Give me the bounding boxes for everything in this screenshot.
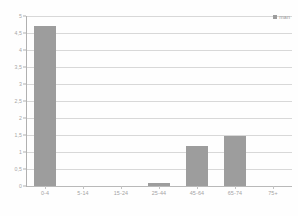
plot-area <box>26 16 292 186</box>
y-axis-tick-mark <box>23 67 26 68</box>
bar-slot <box>178 16 216 186</box>
x-axis-tick-mark <box>235 186 236 189</box>
bar-series-man <box>26 16 292 186</box>
legend-label-man: man <box>279 14 290 20</box>
y-axis-tick-mark <box>23 152 26 153</box>
bar-chart: 00,511,522,533,544,55 0-45-1415-2425-444… <box>0 0 298 216</box>
y-axis-tick-mark <box>23 84 26 85</box>
bar-slot <box>64 16 102 186</box>
y-axis-tick-label: 2 <box>19 115 22 121</box>
legend-swatch-man <box>273 15 277 19</box>
y-axis-tick-mark <box>23 118 26 119</box>
y-axis-tick-mark <box>23 186 26 187</box>
bar-slot <box>26 16 64 186</box>
y-axis-tick-label: 3,5 <box>14 64 22 70</box>
legend: man <box>273 14 290 20</box>
y-axis-tick-mark <box>23 101 26 102</box>
bar-slot <box>140 16 178 186</box>
y-axis-tick-mark <box>23 33 26 34</box>
x-axis-tick-label: 5-14 <box>77 190 88 196</box>
y-axis-line <box>26 16 27 187</box>
y-axis-tick-label: 4 <box>19 47 22 53</box>
bar-slot <box>216 16 254 186</box>
x-axis-tick-label: 15-24 <box>114 190 129 196</box>
x-axis-labels: 0-45-1415-2425-4445-6465-7475+ <box>26 190 292 204</box>
y-axis-tick-label: 0 <box>19 183 22 189</box>
bar <box>186 146 208 186</box>
y-axis-tick-mark <box>23 16 26 17</box>
bar-slot <box>254 16 292 186</box>
bar <box>224 136 246 186</box>
y-axis-tick-mark <box>23 50 26 51</box>
bar-slot <box>102 16 140 186</box>
x-axis-tick-mark <box>159 186 160 189</box>
x-axis-tick-mark <box>45 186 46 189</box>
x-axis-tick-label: 0-4 <box>41 190 49 196</box>
x-axis-tick-mark <box>197 186 198 189</box>
y-axis-tick-label: 4,5 <box>14 30 22 36</box>
x-axis-tick-label: 65-74 <box>228 190 243 196</box>
y-axis-tick-label: 1 <box>19 149 22 155</box>
x-axis-tick-mark <box>273 186 274 189</box>
y-axis-tick-label: 5 <box>19 13 22 19</box>
x-axis-tick-label: 75+ <box>268 190 278 196</box>
y-axis-tick-label: 3 <box>19 81 22 87</box>
y-axis-tick-label: 1,5 <box>14 132 22 138</box>
y-axis-tick-label: 2,5 <box>14 98 22 104</box>
x-axis-tick-label: 45-64 <box>190 190 205 196</box>
y-axis-tick-mark <box>23 135 26 136</box>
y-axis-tick-label: 0,5 <box>14 166 22 172</box>
x-axis-tick-label: 25-44 <box>152 190 167 196</box>
y-axis-ticks: 00,511,522,533,544,55 <box>0 16 26 186</box>
x-axis-tick-mark <box>83 186 84 189</box>
y-axis-tick-mark <box>23 169 26 170</box>
bar <box>34 26 56 186</box>
x-axis-tick-mark <box>121 186 122 189</box>
